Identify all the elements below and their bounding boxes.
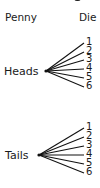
heads-outcome-6: 6 — [86, 81, 92, 91]
heads-branch-1 — [46, 43, 84, 71]
tails-node — [37, 153, 40, 156]
tails-branch-6 — [39, 155, 84, 173]
tree-branches — [0, 0, 100, 188]
heads-branch-5 — [46, 71, 84, 78]
tails-branch-2 — [39, 137, 84, 155]
heads-node — [44, 69, 47, 72]
heads-branch-6 — [46, 71, 84, 87]
tails-outcome-6: 6 — [86, 167, 92, 177]
tails-branch-5 — [39, 155, 84, 164]
